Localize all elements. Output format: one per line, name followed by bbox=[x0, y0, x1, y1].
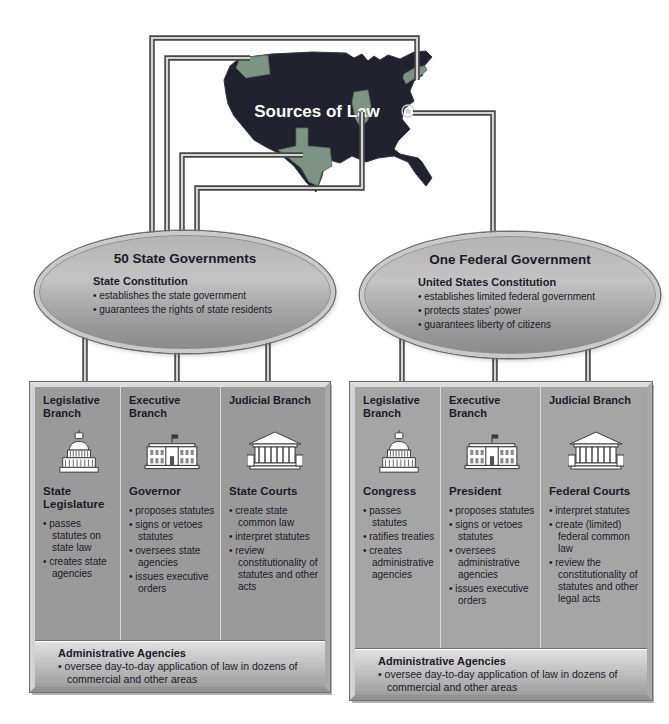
power-item: interpret statutes bbox=[229, 531, 320, 543]
state-administrative-agencies: Administrative Agencies oversee day-to-d… bbox=[35, 642, 325, 687]
admin-bullet: oversee day-to-day application of law in… bbox=[378, 668, 639, 693]
power-item: proposes statutes bbox=[449, 505, 535, 517]
power-item: issues executive orders bbox=[129, 571, 215, 595]
power-item: review the constitutionality of statutes… bbox=[549, 557, 642, 605]
capitol-icon bbox=[363, 421, 435, 483]
branch-title: Legislative Branch bbox=[43, 394, 115, 421]
institution-name: State Legislature bbox=[43, 485, 115, 511]
power-item: oversees state agencies bbox=[129, 545, 215, 569]
sources-of-law-diagram: Sources of Law bbox=[0, 0, 669, 724]
power-item: passes statutes on state law bbox=[43, 518, 115, 554]
institution-name: President bbox=[449, 485, 535, 498]
federal-government-oval: One Federal Government United States Con… bbox=[360, 232, 660, 358]
us-map: Sources of Law bbox=[222, 50, 462, 198]
federal-executive-column: Executive Branch bbox=[441, 387, 541, 648]
white-house-icon bbox=[129, 421, 215, 483]
state-oval-title: 50 State Governments bbox=[39, 251, 331, 266]
federal-constitution-bullet: protects states' power bbox=[418, 305, 622, 317]
branch-title: Legislative Branch bbox=[363, 394, 435, 421]
federal-constitution-bullet: establishes limited federal government bbox=[418, 291, 622, 303]
power-item: signs or vetoes statutes bbox=[129, 519, 215, 543]
white-house-icon bbox=[449, 421, 535, 483]
state-judicial-column: Judicial Branch bbox=[221, 387, 325, 640]
power-item: create (limited) federal common law bbox=[549, 519, 642, 555]
institution-name: Congress bbox=[363, 485, 435, 498]
state-branch-columns: Legislative Branch bbox=[35, 387, 325, 641]
power-item: oversees administrative agencies bbox=[449, 545, 535, 581]
admin-heading: Administrative Agencies bbox=[58, 647, 317, 659]
power-item: creates administrative agencies bbox=[363, 545, 435, 581]
federal-judicial-column: Judicial Branch bbox=[541, 387, 647, 648]
power-item: review constitutionality of statutes and… bbox=[229, 545, 320, 593]
institution-name: Governor bbox=[129, 485, 215, 498]
federal-branch-columns: Legislative Branch bbox=[355, 387, 647, 649]
federal-oval-title: One Federal Government bbox=[364, 252, 656, 267]
power-item: passes statutes bbox=[363, 505, 435, 529]
power-item: interpret statutes bbox=[549, 505, 642, 517]
powers-list: passes statutes ratifies treaties create… bbox=[363, 505, 435, 583]
state-constitution-bullet: guarantees the rights of state residents bbox=[93, 304, 297, 316]
branch-title: Judicial Branch bbox=[549, 394, 642, 421]
admin-heading: Administrative Agencies bbox=[378, 655, 639, 667]
powers-list: proposes statutes signs or vetoes statut… bbox=[449, 505, 535, 609]
powers-list: interpret statutes create (limited) fede… bbox=[549, 505, 642, 607]
powers-list: proposes statutes signs or vetoes statut… bbox=[129, 505, 215, 597]
power-item: signs or vetoes statutes bbox=[449, 519, 535, 543]
capitol-icon bbox=[43, 421, 115, 483]
courthouse-icon bbox=[229, 421, 320, 483]
state-government-panel: Legislative Branch bbox=[30, 382, 330, 692]
federal-constitution-heading: United States Constitution bbox=[418, 276, 622, 290]
federal-constitution-block: United States Constitution establishes l… bbox=[418, 276, 622, 331]
branch-title: Executive Branch bbox=[449, 394, 535, 421]
power-item: ratifies treaties bbox=[363, 531, 435, 543]
map-title: Sources of Law bbox=[254, 102, 380, 121]
state-legislative-column: Legislative Branch bbox=[35, 387, 121, 640]
state-executive-column: Executive Branch bbox=[121, 387, 221, 640]
institution-name: State Courts bbox=[229, 485, 320, 498]
courthouse-icon bbox=[549, 421, 642, 483]
branch-title: Judicial Branch bbox=[229, 394, 320, 421]
state-constitution-heading: State Constitution bbox=[93, 275, 297, 289]
power-item: create state common law bbox=[229, 505, 320, 529]
federal-constitution-bullet: guarantees liberty of citizens bbox=[418, 319, 622, 331]
branch-title: Executive Branch bbox=[129, 394, 215, 421]
state-constitution-block: State Constitution establishes the state… bbox=[93, 275, 297, 316]
powers-list: create state common law interpret statut… bbox=[229, 505, 320, 595]
state-governments-oval: 50 State Governments State Constitution … bbox=[35, 231, 335, 353]
power-item: creates state agencies bbox=[43, 556, 115, 580]
admin-bullet: oversee day-to-day application of law in… bbox=[58, 660, 317, 685]
federal-administrative-agencies: Administrative Agencies oversee day-to-d… bbox=[355, 650, 647, 695]
power-item: proposes statutes bbox=[129, 505, 215, 517]
state-constitution-bullet: establishes the state government bbox=[93, 290, 297, 302]
power-item: issues executive orders bbox=[449, 583, 535, 607]
federal-legislative-column: Legislative Branch bbox=[355, 387, 441, 648]
institution-name: Federal Courts bbox=[549, 485, 642, 498]
federal-government-panel: Legislative Branch bbox=[350, 382, 652, 700]
powers-list: passes statutes on state law creates sta… bbox=[43, 518, 115, 582]
